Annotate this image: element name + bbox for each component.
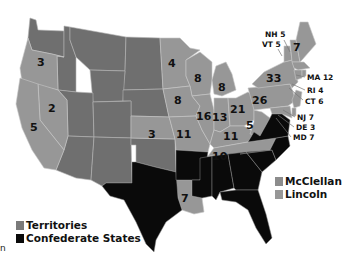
callout-ri: RI 4 [307,86,323,95]
ev-label-pennsylvania: 26 [252,94,268,107]
callout-ct: CT 6 [305,97,323,106]
territories-swatch-icon [16,221,24,230]
ev-label-missouri: 11 [176,128,191,141]
ev-label-nevada: 2 [48,102,56,115]
territory-wyoming [90,70,125,102]
legend-label-mcclellan: McClellan [285,175,342,188]
ev-label-oregon: 3 [37,56,45,69]
mcclellan-swatch-icon [275,177,283,186]
callout-md: MD 7 [293,133,315,142]
callout-nh: NH 5 [265,30,285,39]
legend-label-confederate: Confederate States [26,232,141,245]
ev-label-ohio: 21 [230,103,245,116]
territory-new-mexico [91,137,132,186]
state-florida [220,190,272,244]
ev-label-west-virginia: 5 [246,119,254,132]
callout-de: DE 3 [296,123,315,132]
legend-status: Territories Confederate States [16,219,141,245]
ev-label-kansas: 3 [148,128,156,141]
callout-nj: NJ 7 [297,113,314,122]
legend-candidates: McClellan Lincoln [275,175,342,201]
ev-label-louisiana: 7 [181,192,189,205]
territory-montana [70,27,126,71]
ev-label-tennessee: 10 [212,150,228,163]
state-delaware [292,108,296,116]
ev-label-michigan: 8 [218,81,226,94]
clipped-text-fragment: n [0,243,6,253]
legend-label-territories: Territories [26,219,87,232]
legend-item-mcclellan: McClellan [275,175,342,188]
legend-item-confederate: Confederate States [16,232,141,245]
ev-label-wisconsin: 8 [194,72,202,85]
ev-label-maine: 7 [293,41,301,54]
ev-label-indiana: 13 [212,111,227,124]
ev-label-kentucky: 11 [223,130,238,143]
ev-label-california: 5 [30,121,38,134]
ev-label-new-york: 33 [266,72,281,85]
confederate-swatch-icon [16,234,24,243]
ev-label-iowa: 8 [174,94,182,107]
lincoln-swatch-icon [275,190,283,199]
callout-vt: VT 5 [262,40,281,49]
callout-ma: MA 12 [307,73,333,82]
legend-label-lincoln: Lincoln [285,188,327,201]
territory-colorado [93,101,131,138]
ev-label-minnesota: 4 [168,57,176,70]
legend-item-territories: Territories [16,219,141,232]
legend-item-lincoln: Lincoln [275,188,342,201]
state-rhode-island [302,70,306,77]
ev-label-illinois: 16 [196,110,212,123]
territory-dakota [123,37,163,90]
